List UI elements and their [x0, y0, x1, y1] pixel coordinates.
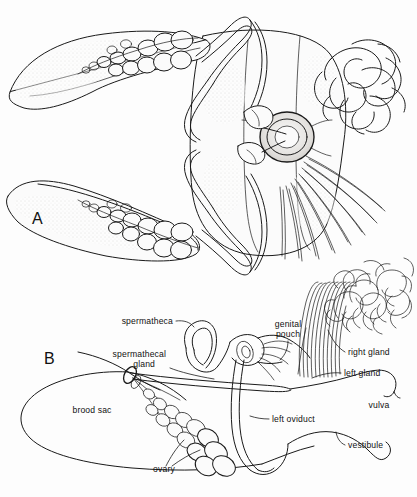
label-right-gland: right gland	[348, 347, 390, 357]
leader-left-oviduct	[250, 416, 269, 419]
panel-b-letter: B	[44, 350, 55, 367]
label-vulva: vulva	[369, 400, 390, 410]
leader-spermatheca	[176, 321, 194, 327]
panel-a	[6, 17, 405, 275]
label-brood-sac: brood sac	[72, 405, 112, 415]
leader-left-gland	[312, 373, 341, 378]
label-vestibule: vestibule	[348, 440, 383, 450]
ovary-oocytes	[133, 378, 239, 480]
figure-plate: A	[0, 0, 417, 497]
label-genital-pouch-line2: pouch	[276, 329, 300, 339]
panel-a-letter: A	[32, 210, 43, 227]
label-spermathecal-gland-line1: spermathecal	[113, 349, 166, 359]
leader-spermathecal-gland	[170, 368, 214, 379]
left-gland-bundle	[298, 282, 354, 377]
label-ovary: ovary	[153, 464, 175, 474]
panel-b: spermatheca spermathecal gland genital p…	[21, 258, 414, 480]
label-left-gland: left gland	[344, 368, 380, 378]
label-spermathecal-gland-line2: gland	[133, 359, 155, 369]
label-spermatheca: spermatheca	[122, 316, 173, 326]
label-left-oviduct: left oviduct	[272, 414, 315, 424]
label-genital-pouch-line1: genital	[275, 319, 301, 329]
figure-illustration: A	[0, 0, 417, 497]
spermatheca-tube	[184, 321, 230, 372]
